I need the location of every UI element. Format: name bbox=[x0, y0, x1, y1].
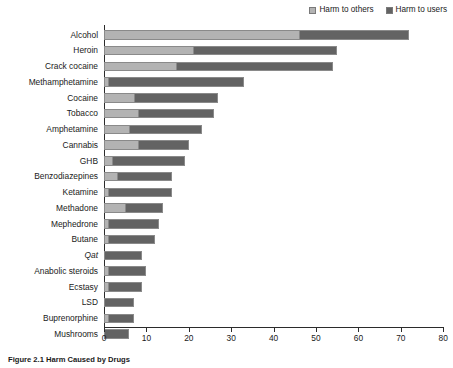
chart-legend: Harm to othersHarm to users bbox=[309, 6, 447, 14]
stacked-bar bbox=[104, 266, 146, 276]
bar-label-lsd: LSD bbox=[0, 298, 98, 306]
bar-segment-harm-to-users bbox=[299, 30, 409, 40]
bar-label-ketamine: Ketamine bbox=[0, 188, 98, 196]
bar-segment-harm-to-users bbox=[138, 140, 189, 150]
legend-entry-users: Harm to users bbox=[386, 6, 447, 14]
bar-label-anabolic-steroids: Anabolic steroids bbox=[0, 267, 98, 275]
stacked-bar bbox=[104, 188, 172, 198]
stacked-bar bbox=[104, 282, 142, 292]
bar-segment-harm-to-others bbox=[104, 46, 193, 56]
stacked-bar bbox=[104, 109, 214, 119]
bar-segment-harm-to-users bbox=[108, 188, 172, 198]
bar-segment-harm-to-users bbox=[104, 251, 142, 261]
bar-row: Tobacco bbox=[0, 106, 453, 122]
stacked-bar bbox=[104, 251, 142, 261]
bar-segment-harm-to-users bbox=[112, 156, 184, 166]
bar-row: Ketamine bbox=[0, 185, 453, 201]
bar-segment-harm-to-users bbox=[129, 125, 201, 135]
stacked-bar bbox=[104, 219, 159, 229]
x-axis-tick bbox=[443, 328, 444, 332]
bar-label-ghb: GHB bbox=[0, 157, 98, 165]
bar-row: Heroin bbox=[0, 43, 453, 59]
stacked-bar bbox=[104, 77, 244, 87]
bar-row: Amphetamine bbox=[0, 122, 453, 138]
x-axis-tick bbox=[146, 328, 147, 332]
bar-row: Anabolic steroids bbox=[0, 263, 453, 279]
bar-rows: AlcoholHeroinCrack cocaineMethamphetamin… bbox=[0, 27, 453, 342]
x-axis-tick bbox=[316, 328, 317, 332]
bar-segment-harm-to-others bbox=[104, 62, 176, 72]
bar-segment-harm-to-others bbox=[104, 156, 112, 166]
bar-row: Alcohol bbox=[0, 27, 453, 43]
stacked-bar bbox=[104, 314, 134, 324]
x-axis-tick-label: 80 bbox=[439, 334, 448, 342]
bar-segment-harm-to-others bbox=[104, 109, 138, 119]
legend-swatch-users bbox=[386, 7, 393, 14]
x-axis-tick bbox=[401, 328, 402, 332]
bar-label-alcohol: Alcohol bbox=[0, 31, 98, 39]
bar-label-mephedrone: Mephedrone bbox=[0, 220, 98, 228]
chart-plot-area: AlcoholHeroinCrack cocaineMethamphetamin… bbox=[0, 22, 453, 334]
x-axis-tick-label: 0 bbox=[102, 334, 107, 342]
bar-segment-harm-to-users bbox=[108, 77, 244, 87]
stacked-bar bbox=[104, 140, 189, 150]
bar-label-cannabis: Cannabis bbox=[0, 141, 98, 149]
x-axis-tick bbox=[358, 328, 359, 332]
stacked-bar bbox=[104, 46, 337, 56]
stacked-bar bbox=[104, 203, 163, 213]
bar-label-methadone: Methadone bbox=[0, 204, 98, 212]
bar-segment-harm-to-users bbox=[108, 266, 146, 276]
legend-label-others: Harm to others bbox=[319, 6, 373, 14]
bar-segment-harm-to-users bbox=[108, 219, 159, 229]
bar-segment-harm-to-users bbox=[104, 329, 129, 339]
bar-row: Mephedrone bbox=[0, 216, 453, 232]
harm-caused-by-drugs-figure: Harm to othersHarm to users AlcoholHeroi… bbox=[0, 0, 453, 368]
stacked-bar bbox=[104, 172, 172, 182]
x-axis-tick-label: 30 bbox=[227, 334, 236, 342]
bar-label-buprenorphine: Buprenorphine bbox=[0, 314, 98, 322]
stacked-bar bbox=[104, 329, 129, 339]
bar-row: LSD bbox=[0, 295, 453, 311]
bar-row: Methadone bbox=[0, 200, 453, 216]
bar-label-qat: Qat bbox=[0, 251, 98, 259]
bar-segment-harm-to-users bbox=[125, 203, 163, 213]
bar-row: Cannabis bbox=[0, 137, 453, 153]
bar-segment-harm-to-users bbox=[193, 46, 337, 56]
bar-label-cocaine: Cocaine bbox=[0, 94, 98, 102]
bar-label-tobacco: Tobacco bbox=[0, 109, 98, 117]
legend-entry-others: Harm to others bbox=[309, 6, 373, 14]
stacked-bar bbox=[104, 93, 218, 103]
bar-label-ecstasy: Ecstasy bbox=[0, 283, 98, 291]
x-axis-tick bbox=[104, 328, 105, 332]
bar-segment-harm-to-others bbox=[104, 93, 134, 103]
bar-segment-harm-to-users bbox=[138, 109, 214, 119]
bar-label-benzodiazepines: Benzodiazepines bbox=[0, 172, 98, 180]
bar-row: GHB bbox=[0, 153, 453, 169]
bar-segment-harm-to-others bbox=[104, 125, 129, 135]
bar-segment-harm-to-users bbox=[108, 235, 155, 245]
stacked-bar bbox=[104, 30, 409, 40]
bar-row: Ecstasy bbox=[0, 279, 453, 295]
bar-label-heroin: Heroin bbox=[0, 46, 98, 54]
figure-caption: Figure 2.1 Harm Caused by Drugs bbox=[8, 356, 130, 364]
bar-row: Benzodiazepines bbox=[0, 169, 453, 185]
bar-label-amphetamine: Amphetamine bbox=[0, 125, 98, 133]
bar-segment-harm-to-users bbox=[134, 93, 219, 103]
bar-label-mushrooms: Mushrooms bbox=[0, 330, 98, 338]
stacked-bar bbox=[104, 62, 333, 72]
bar-segment-harm-to-others bbox=[104, 172, 117, 182]
bar-segment-harm-to-users bbox=[108, 314, 133, 324]
stacked-bar bbox=[104, 235, 155, 245]
stacked-bar bbox=[104, 125, 202, 135]
bar-row: Qat bbox=[0, 248, 453, 264]
legend-label-users: Harm to users bbox=[396, 6, 447, 14]
bar-label-methamphetamine: Methamphetamine bbox=[0, 78, 98, 86]
stacked-bar bbox=[104, 156, 185, 166]
x-axis-tick-label: 60 bbox=[354, 334, 363, 342]
bar-segment-harm-to-users bbox=[176, 62, 333, 72]
bar-segment-harm-to-others bbox=[104, 203, 125, 213]
x-axis-tick bbox=[231, 328, 232, 332]
legend-swatch-others bbox=[309, 7, 316, 14]
bar-segment-harm-to-users bbox=[104, 298, 134, 308]
bar-row: Cocaine bbox=[0, 90, 453, 106]
